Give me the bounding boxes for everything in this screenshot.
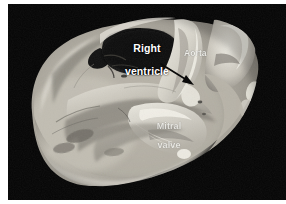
figure-root: Right ventricle Aorta Mitral valve [0, 0, 286, 204]
heart-specimen-photograph [8, 4, 286, 200]
photograph-plate: Right ventricle Aorta Mitral valve [8, 4, 286, 200]
film-grain [8, 4, 286, 200]
